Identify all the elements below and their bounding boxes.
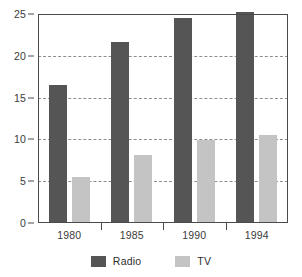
- y-tick-mark: [28, 97, 34, 98]
- y-tick-label: 5: [20, 175, 26, 187]
- bar-tv-1994: [259, 135, 277, 223]
- bar-tv-1980: [72, 177, 90, 223]
- legend-swatch-tv: [175, 256, 190, 267]
- legend-label-tv: TV: [197, 255, 211, 267]
- bar-radio-1994: [236, 12, 254, 223]
- x-tick-label-1980: 1980: [38, 229, 101, 247]
- chart-legend: RadioTV: [0, 252, 302, 270]
- plot-area: [38, 14, 288, 223]
- x-axis-labels: 1980198519901994: [38, 229, 288, 247]
- x-tick-label-1994: 1994: [226, 229, 289, 247]
- legend-label-radio: Radio: [113, 255, 141, 267]
- bar-group-1994: [226, 14, 289, 223]
- x-tick-label-1990: 1990: [163, 229, 226, 247]
- bar-radio-1985: [111, 42, 129, 223]
- y-tick-mark: [28, 139, 34, 140]
- bars-layer: [38, 14, 288, 223]
- bar-tv-1990: [197, 140, 215, 223]
- bar-group-1990: [163, 14, 226, 223]
- y-tick-mark: [28, 14, 34, 15]
- bar-tv-1985: [134, 155, 152, 223]
- y-tick-mark: [28, 181, 34, 182]
- y-tick-label: 10: [14, 133, 26, 145]
- x-tick-label-1985: 1985: [101, 229, 164, 247]
- legend-item-tv[interactable]: TV: [175, 255, 211, 267]
- y-axis: 0510152025: [0, 14, 34, 223]
- y-tick-mark: [28, 223, 34, 224]
- legend-swatch-radio: [91, 256, 106, 267]
- bar-group-1980: [38, 14, 101, 223]
- y-tick-mark: [28, 55, 34, 56]
- legend-item-radio[interactable]: Radio: [91, 255, 141, 267]
- y-tick-label: 20: [14, 50, 26, 62]
- bar-group-1985: [101, 14, 164, 223]
- bar-radio-1990: [174, 18, 192, 223]
- y-tick-label: 15: [14, 92, 26, 104]
- bar-radio-1980: [49, 85, 67, 223]
- bar-chart-figure: 0510152025 1980198519901994 RadioTV: [0, 0, 302, 277]
- y-tick-label: 25: [14, 8, 26, 20]
- y-tick-label: 0: [20, 217, 26, 229]
